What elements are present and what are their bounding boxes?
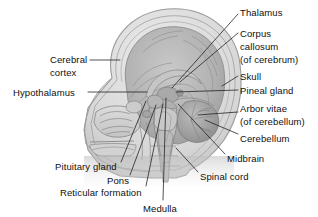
figure-canvas: ThalamusCorpuscallosum(of cerebrum)Skull… <box>0 0 318 217</box>
label-pituitary-gland: Pituitary gland <box>55 162 130 172</box>
leader-line-cerebellum <box>205 120 238 134</box>
leader-line-arbor-vitae <box>198 112 238 115</box>
label-cerebellum: Cerebellum <box>240 134 290 144</box>
label-cerebral-cortex: Cerebral <box>50 55 90 65</box>
leader-line-midbrain <box>178 104 225 154</box>
label-arbor-vitae-2: (of cerebellum) <box>240 117 305 127</box>
label-corpus-callosum: Corpus <box>240 29 271 39</box>
leader-line-pituitary-gland <box>121 101 146 162</box>
label-thalamus: Thalamus <box>240 8 283 18</box>
label-cerebral-cortex-2: cortex <box>50 68 80 78</box>
label-midbrain: Midbrain <box>227 154 264 164</box>
leader-line-pineal-gland <box>176 90 238 92</box>
label-skull: Skull <box>240 72 261 82</box>
label-medulla: Medulla <box>143 204 177 214</box>
leader-line-medulla <box>163 98 166 200</box>
label-corpus-callosum-2: callosum <box>240 42 278 52</box>
label-pineal-gland: Pineal gland <box>240 86 294 96</box>
leader-line-corpus-callosum <box>180 33 238 82</box>
label-arbor-vitae: Arbor vitae <box>240 104 287 114</box>
leader-line-reticular-formation <box>146 104 163 186</box>
label-corpus-callosum-3: (of cerebrum) <box>240 55 298 65</box>
leader-line-pons <box>130 105 156 175</box>
leader-line-skull <box>222 76 238 86</box>
leader-line-thalamus <box>172 14 238 88</box>
label-hypothalamus: Hypothalamus <box>13 88 73 98</box>
label-spinal-cord: Spinal cord <box>200 172 249 182</box>
leader-line-spinal-cord <box>176 148 198 172</box>
label-reticular-formation: Reticular formation <box>60 188 155 198</box>
label-pons: Pons <box>107 176 127 186</box>
